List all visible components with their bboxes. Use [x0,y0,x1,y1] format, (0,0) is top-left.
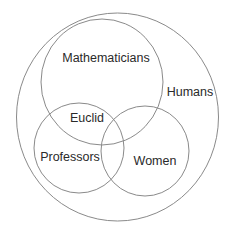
label-euclid: Euclid [70,111,104,125]
circle-women [101,106,189,196]
label-professors: Professors [40,150,100,164]
label-mathematicians: Mathematicians [62,51,150,65]
circle-mathematicians [41,19,163,145]
venn-diagram: Mathematicians Humans Euclid Professors … [0,0,228,231]
label-humans: Humans [167,85,214,99]
label-women: Women [134,154,177,168]
